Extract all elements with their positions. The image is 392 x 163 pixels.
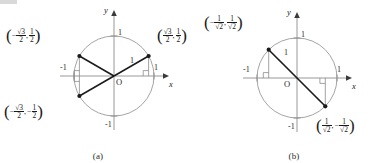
x-fraction: √32	[14, 104, 24, 121]
y-axis-label-b: y	[287, 7, 291, 17]
y-denominator: 2	[29, 36, 35, 44]
x-denominator: 2	[16, 36, 26, 44]
point-dot-upper-left-b	[267, 48, 271, 52]
x-denominator: √2	[322, 126, 332, 134]
coord-label-upper-right-a: (√32,12)	[157, 28, 187, 45]
y-fraction: 1√2	[339, 118, 349, 135]
point-dot-lower-right-b	[323, 104, 327, 108]
x-axis-label-a: x	[169, 79, 173, 89]
coord-label-upper-left-a: (−√32,12)	[6, 28, 40, 45]
y-fraction: 12	[29, 28, 35, 45]
paren-open: (	[4, 102, 10, 121]
y-axis-arrow-b	[294, 12, 300, 18]
radius-length-label-a: 1	[130, 56, 134, 65]
x-fraction: √32	[163, 28, 173, 45]
y-denominator: √2	[227, 23, 237, 31]
x-fraction: √32	[16, 28, 26, 45]
unit-circle-figure: x y 1 -1 1 -1 O 1 (√32,12) (−√32,12) (−√…	[0, 0, 392, 163]
radius-length-label-b: 1	[284, 48, 288, 57]
x-fraction: 1√2	[214, 15, 224, 32]
y-tick-label-pos-b: 1	[301, 30, 305, 39]
y-tick-label-neg-a: -1	[105, 120, 112, 129]
x-denominator: 2	[163, 36, 173, 44]
right-angle-marker-right-a	[143, 71, 148, 76]
origin-label-a: O	[116, 77, 122, 87]
radius-to-upper-left-a	[79, 56, 114, 76]
x-axis-arrow-b	[346, 75, 352, 81]
right-angle-marker-right-b	[320, 78, 325, 83]
paren-close: )	[181, 26, 187, 45]
paren-open: (	[6, 26, 12, 45]
paren-close: )	[37, 102, 43, 121]
x-fraction: 1√2	[322, 118, 332, 135]
point-dot-upper-left-a	[77, 54, 81, 58]
panel-a: x y 1 -1 1 -1 O 1 (√32,12) (−√32,12) (−√…	[0, 0, 196, 163]
panel-b-caption: (b)	[196, 151, 392, 161]
x-denominator: 2	[14, 112, 24, 120]
x-tick-label-pos-a: 1	[154, 63, 158, 72]
y-tick-label-pos-a: 1	[118, 28, 122, 37]
y-denominator: √2	[339, 126, 349, 134]
x-tick-label-neg-b: -1	[243, 65, 250, 74]
right-angle-marker-left-b	[263, 73, 268, 78]
x-axis-label-b: x	[352, 81, 356, 91]
coord-label-lower-right-b: (1√2,−1√2)	[316, 118, 355, 135]
x-tick-label-pos-b: 1	[337, 65, 341, 74]
paren-close: )	[237, 13, 243, 32]
paren-close: )	[349, 116, 355, 135]
coord-label-lower-left-a: (−√32,−12)	[4, 104, 43, 121]
paren-open: (	[204, 13, 210, 32]
origin-label-b: O	[284, 79, 290, 89]
panel-a-caption: (a)	[0, 151, 196, 161]
y-tick-label-neg-b: -1	[288, 122, 295, 131]
y-axis-label-a: y	[104, 5, 108, 15]
coord-label-upper-left-b: (−1√2,1√2)	[204, 15, 243, 32]
y-axis-arrow-a	[111, 10, 117, 16]
radius-to-lower-left-a	[79, 76, 114, 96]
x-tick-label-neg-a: -1	[60, 63, 67, 72]
paren-close: )	[35, 26, 41, 45]
y-fraction: 1√2	[227, 15, 237, 32]
point-dot-lower-left-a	[77, 94, 81, 98]
x-axis-arrow-a	[163, 73, 169, 79]
panel-a-graphic	[0, 0, 196, 163]
x-denominator: √2	[214, 23, 224, 31]
point-dot-upper-right-a	[147, 54, 151, 58]
panel-b: x y 1 -1 1 -1 O 1 (−1√2,1√2) (1√2,−1√2) …	[196, 0, 392, 163]
